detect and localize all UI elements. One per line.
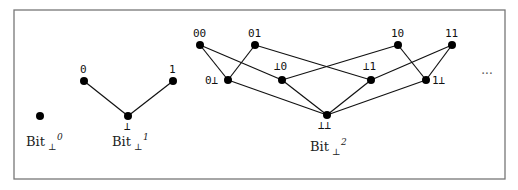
lattice-node (422, 76, 430, 84)
lattice-edges (84, 45, 452, 116)
node-label: 0 (80, 63, 87, 76)
node-label: 0⊥ (205, 74, 219, 87)
node-label: 11 (445, 27, 458, 40)
lattice-edge (398, 45, 426, 80)
lattice-node (36, 112, 44, 120)
svg-text:Bit: Bit (112, 134, 132, 149)
node-label: ⊥⊥ (318, 119, 332, 132)
lattice-node (323, 111, 331, 119)
lattice-edge (84, 81, 128, 116)
node-label: ⊥ (124, 120, 131, 133)
node-label: 01 (248, 27, 261, 40)
lattice-node (224, 76, 232, 84)
node-label: 10 (391, 27, 404, 40)
lattice-nodes (36, 41, 456, 120)
lattice-node (448, 41, 456, 49)
lattice-caption: Bit⊥2 (310, 137, 347, 157)
lattice-node (169, 77, 177, 85)
lattice-node (278, 76, 286, 84)
node-label: 00 (193, 27, 206, 40)
lattice-captions: Bit⊥0Bit⊥1Bit⊥2 (26, 132, 347, 157)
lattice-node (367, 76, 375, 84)
node-label: 1⊥ (432, 74, 446, 87)
node-labels: 01⊥000110110⊥⊥0⊥11⊥⊥⊥ (80, 27, 458, 133)
svg-text:⊥: ⊥ (134, 142, 142, 152)
svg-text:1: 1 (143, 132, 149, 142)
svg-text:2: 2 (340, 137, 347, 147)
lattice-edge (327, 80, 371, 115)
ellipsis-continuation: ··· (481, 67, 492, 81)
svg-text:⊥: ⊥ (48, 142, 56, 152)
lattice-diagram: 01⊥000110110⊥⊥0⊥11⊥⊥⊥ Bit⊥0Bit⊥1Bit⊥2 ··… (0, 0, 518, 190)
node-label: ⊥0 (274, 60, 287, 73)
node-label: 1 (169, 63, 176, 76)
svg-text:Bit: Bit (310, 139, 330, 154)
lattice-node (124, 112, 132, 120)
svg-text:0: 0 (57, 132, 63, 142)
lattice-edge (282, 80, 327, 115)
lattice-node (251, 41, 259, 49)
lattice-node (196, 41, 204, 49)
lattice-caption: Bit⊥0 (26, 132, 63, 152)
node-label: ⊥1 (363, 60, 376, 73)
lattice-edge (255, 45, 371, 80)
lattice-caption: Bit⊥1 (112, 132, 149, 152)
svg-text:⊥: ⊥ (332, 147, 340, 157)
lattice-node (394, 41, 402, 49)
lattice-edge (327, 80, 426, 115)
lattice-edge (128, 81, 173, 116)
lattice-node (80, 77, 88, 85)
lattice-edge (282, 45, 398, 80)
lattice-edge (228, 80, 327, 115)
svg-text:Bit: Bit (26, 134, 46, 149)
